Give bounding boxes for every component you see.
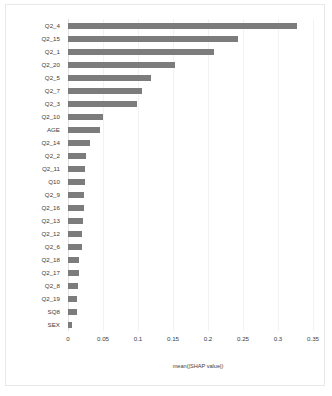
y-axis-tick-label: Q2_5: [45, 74, 60, 81]
bar: [68, 257, 79, 263]
bar: [68, 296, 77, 302]
shap-feature-importance-chart: Q2_4Q2_15Q2_1Q2_20Q2_5Q2_7Q2_3Q2_10AGEQ2…: [0, 0, 332, 396]
bar: [68, 205, 84, 211]
bar: [68, 62, 175, 68]
y-axis-tick-label: Q2_15: [41, 35, 60, 42]
gridline: [243, 19, 244, 331]
bar: [68, 140, 90, 146]
gridline: [208, 19, 209, 331]
bar: [68, 270, 79, 276]
x-axis-tick-label: 0.3: [274, 335, 283, 342]
bar: [68, 166, 85, 172]
bar: [68, 49, 214, 55]
x-axis-tick-label: 0.15: [167, 335, 179, 342]
x-axis-tick-label: 0.25: [237, 335, 249, 342]
bar: [68, 153, 86, 159]
y-axis-tick-label: Q2_18: [41, 256, 60, 263]
y-axis-tick-label: Q2_10: [41, 113, 60, 120]
bar: [68, 309, 77, 315]
y-axis-tick-label: Q2_1: [45, 48, 60, 55]
bar: [68, 218, 83, 224]
y-axis-tick-label: Q2_6: [45, 243, 60, 250]
bar: [68, 101, 137, 107]
x-axis-label: mean(|SHAP value|): [11, 363, 331, 369]
bar: [68, 127, 100, 133]
y-axis-tick-label: Q2_9: [45, 191, 60, 198]
y-axis-tick-label: SEX: [48, 321, 60, 328]
bar: [68, 114, 103, 120]
bar: [68, 88, 142, 94]
bar: [68, 23, 297, 29]
chart-frame: Q2_4Q2_15Q2_1Q2_20Q2_5Q2_7Q2_3Q2_10AGEQ2…: [5, 4, 325, 386]
y-axis-tick-label: Q2_16: [41, 204, 60, 211]
y-axis-tick-label: SQ8: [48, 308, 60, 315]
bar: [68, 244, 82, 250]
y-axis-tick-label: Q2_14: [41, 139, 60, 146]
bar: [68, 231, 82, 237]
bar: [68, 322, 72, 328]
y-axis-tick-label: Q2_2: [45, 152, 60, 159]
y-axis-tick-label: Q2_8: [45, 282, 60, 289]
y-axis-tick-labels: Q2_4Q2_15Q2_1Q2_20Q2_5Q2_7Q2_3Q2_10AGEQ2…: [6, 19, 64, 331]
x-axis-tick-labels: 00.050.10.150.20.250.30.35: [68, 335, 313, 347]
bar: [68, 36, 238, 42]
y-axis-tick-label: Q2_12: [41, 230, 60, 237]
x-axis-tick-label: 0.2: [204, 335, 213, 342]
x-axis-tick-label: 0.35: [307, 335, 319, 342]
y-axis-tick-label: Q2_11: [42, 165, 60, 172]
bar: [68, 75, 151, 81]
y-axis-tick-label: AGE: [47, 126, 60, 133]
y-axis-tick-label: Q2_17: [41, 269, 60, 276]
x-axis-label-text: mean(|SHAP value|): [173, 363, 224, 369]
y-axis-tick-label: Q2_19: [41, 295, 60, 302]
plot-area: [68, 19, 313, 331]
y-axis-tick-label: Q2_20: [41, 61, 60, 68]
gridline: [313, 19, 314, 331]
bar: [68, 179, 85, 185]
x-axis-tick-label: 0.1: [134, 335, 143, 342]
y-axis-tick-label: Q2_7: [45, 87, 60, 94]
y-axis-tick-label: Q2_13: [41, 217, 60, 224]
y-axis-tick-label: Q2_4: [45, 22, 60, 29]
x-axis-tick-label: 0: [66, 335, 69, 342]
x-axis-tick-label: 0.05: [97, 335, 109, 342]
bar: [68, 283, 78, 289]
bar: [68, 192, 84, 198]
y-axis-tick-label: Q2_3: [45, 100, 60, 107]
y-axis-tick-label: Q10: [48, 178, 60, 185]
gridline: [278, 19, 279, 331]
